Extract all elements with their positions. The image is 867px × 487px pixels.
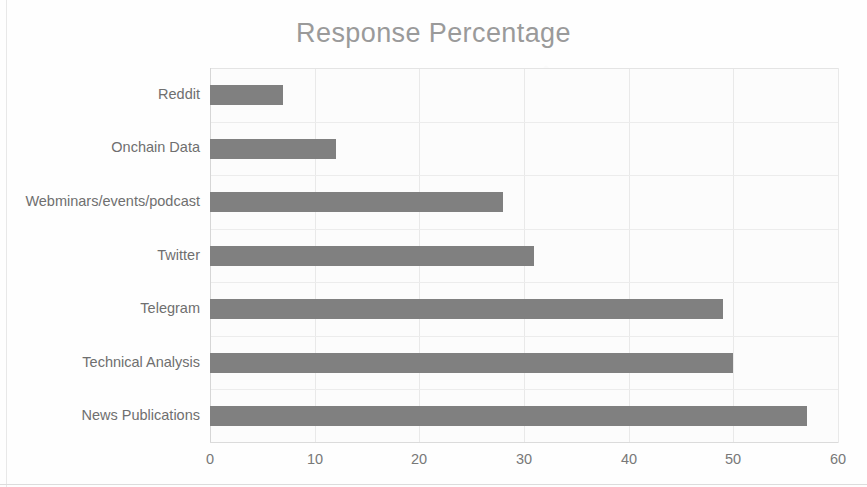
category-label-telegram: Telegram — [10, 300, 210, 316]
x-tick-label-50: 50 — [703, 451, 763, 467]
plot-area — [210, 68, 838, 443]
x-tick-label-10: 10 — [285, 451, 345, 467]
bar-row — [210, 122, 838, 176]
x-tick-label-20: 20 — [389, 451, 449, 467]
bar-webminars-events-podcast[interactable] — [210, 192, 503, 212]
category-axis: RedditOnchain DataWebminars/events/podca… — [0, 68, 210, 443]
chart-title: Response Percentage — [0, 18, 867, 49]
bar-row — [210, 336, 838, 390]
x-tick-label-30: 30 — [494, 451, 554, 467]
category-label-onchain-data: Onchain Data — [10, 139, 210, 155]
bar-reddit[interactable] — [210, 85, 283, 105]
bar-row — [210, 282, 838, 336]
gridline-vertical-60 — [838, 68, 839, 443]
scan-edge-bottom-artifact — [0, 484, 867, 485]
bar-row — [210, 68, 838, 122]
bar-technical-analysis[interactable] — [210, 353, 733, 373]
x-tick-label-40: 40 — [599, 451, 659, 467]
x-axis-line — [210, 442, 838, 443]
category-label-webminars-events-podcast: Webminars/events/podcast — [10, 193, 210, 209]
bar-onchain-data[interactable] — [210, 139, 336, 159]
chart-figure: Response Percentage RedditOnchain DataWe… — [0, 0, 867, 487]
category-label-technical-analysis: Technical Analysis — [10, 354, 210, 370]
category-label-twitter: Twitter — [10, 247, 210, 263]
x-tick-label-60: 60 — [808, 451, 867, 467]
bar-row — [210, 389, 838, 443]
bar-telegram[interactable] — [210, 299, 723, 319]
x-tick-label-0: 0 — [180, 451, 240, 467]
bar-row — [210, 175, 838, 229]
bar-row — [210, 229, 838, 283]
category-label-reddit: Reddit — [10, 86, 210, 102]
category-label-news-publications: News Publications — [10, 407, 210, 423]
x-axis-tick-labels: 0102030405060 — [0, 451, 867, 477]
bar-twitter[interactable] — [210, 246, 534, 266]
bar-news-publications[interactable] — [210, 406, 807, 426]
